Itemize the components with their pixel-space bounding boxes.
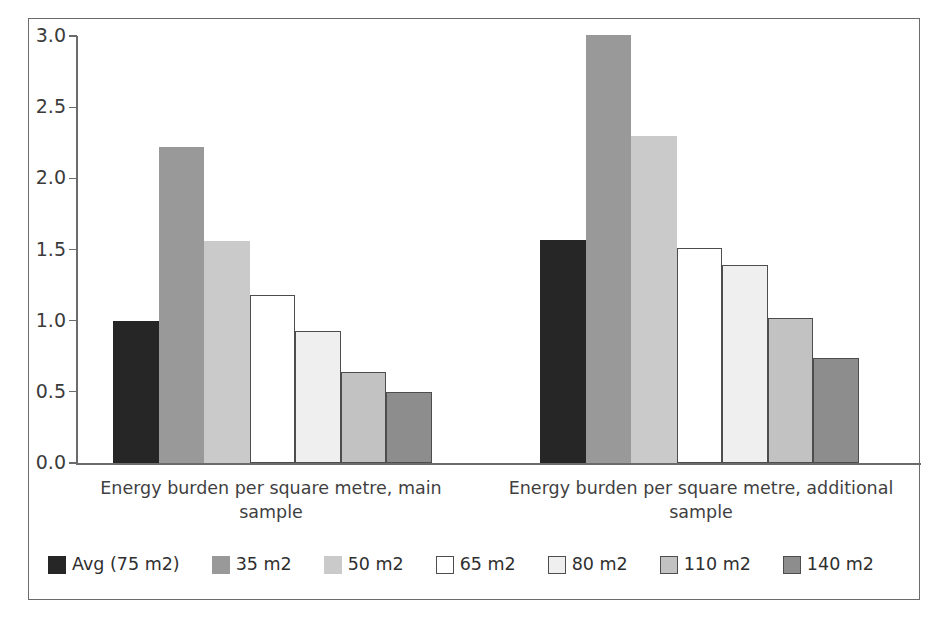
bar-3-group-1 <box>677 248 723 463</box>
legend-item-3: 65 m2 <box>436 556 516 574</box>
bar-4-group-1 <box>722 265 768 463</box>
plot-area <box>76 36 914 463</box>
legend-label: 80 m2 <box>572 556 628 574</box>
legend-swatch-icon <box>660 556 678 574</box>
legend-swatch-icon <box>324 556 342 574</box>
legend-swatch-icon <box>436 556 454 574</box>
y-axis-tick-label: 2.0 <box>22 168 66 187</box>
y-axis-tick-label: 1.0 <box>22 311 66 330</box>
y-axis-tick-label: 1.5 <box>22 240 66 259</box>
y-axis-tick-label: 0.0 <box>22 453 66 472</box>
bar-6-group-0 <box>386 392 432 463</box>
legend-label: 140 m2 <box>807 556 874 574</box>
legend-swatch-icon <box>548 556 566 574</box>
legend-item-4: 80 m2 <box>548 556 628 574</box>
bar-3-group-0 <box>250 295 296 463</box>
legend-item-2: 50 m2 <box>324 556 404 574</box>
y-axis-tick-label: 2.5 <box>22 97 66 116</box>
chart-legend: Avg (75 m2)35 m250 m265 m280 m2110 m2140… <box>48 548 898 582</box>
bar-2-group-0 <box>204 241 250 463</box>
legend-item-0: Avg (75 m2) <box>48 556 180 574</box>
y-axis-tick-label: 0.5 <box>22 382 66 401</box>
legend-item-1: 35 m2 <box>212 556 292 574</box>
x-axis-category-label-1: Energy burden per square metre, addition… <box>496 477 906 524</box>
bar-chart: 0.00.51.01.52.02.53.0 Energy burden per … <box>0 0 947 622</box>
x-axis-line <box>76 463 921 465</box>
bar-1-group-1 <box>586 35 632 463</box>
legend-label: 50 m2 <box>348 556 404 574</box>
y-axis-tick-label: 3.0 <box>22 26 66 45</box>
legend-swatch-icon <box>212 556 230 574</box>
bar-2-group-1 <box>631 136 677 463</box>
bar-4-group-0 <box>295 331 341 463</box>
legend-swatch-icon <box>783 556 801 574</box>
bar-0-group-0 <box>113 321 159 463</box>
bar-5-group-1 <box>768 318 814 463</box>
legend-label: 35 m2 <box>236 556 292 574</box>
legend-item-5: 110 m2 <box>660 556 751 574</box>
bar-6-group-1 <box>813 358 859 463</box>
bar-0-group-1 <box>540 240 586 463</box>
legend-item-6: 140 m2 <box>783 556 874 574</box>
legend-label: Avg (75 m2) <box>72 556 180 574</box>
legend-swatch-icon <box>48 556 66 574</box>
bar-5-group-0 <box>341 372 387 463</box>
x-axis-category-label-0: Energy burden per square metre, main sam… <box>66 477 476 524</box>
legend-label: 110 m2 <box>684 556 751 574</box>
bar-1-group-0 <box>159 147 205 463</box>
legend-label: 65 m2 <box>460 556 516 574</box>
